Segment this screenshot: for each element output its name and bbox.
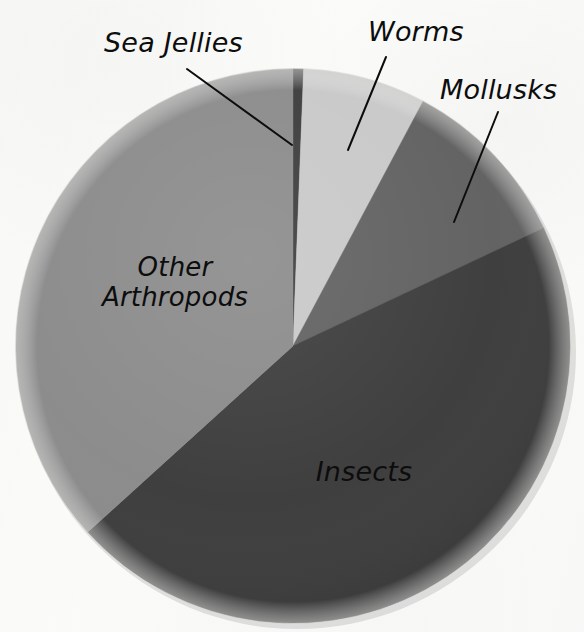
slice-label-worms: Worms: [368, 16, 464, 47]
slice-label-sea-jellies: Sea Jellies: [104, 27, 243, 58]
slice-label-insects: Insects: [288, 456, 440, 487]
pie-edge-halo: [15, 68, 571, 624]
slice-label-mollusks: Mollusks: [440, 74, 557, 105]
slice-label-other-arthropods-line1: Other: [86, 252, 264, 282]
slice-label-other-arthropods-line2: Arthropods: [86, 282, 264, 312]
slice-label-other-arthropods: Other Arthropods: [86, 252, 264, 312]
pie-chart-figure: Sea Jellies Worms Mollusks Other Arthrop…: [0, 0, 584, 632]
